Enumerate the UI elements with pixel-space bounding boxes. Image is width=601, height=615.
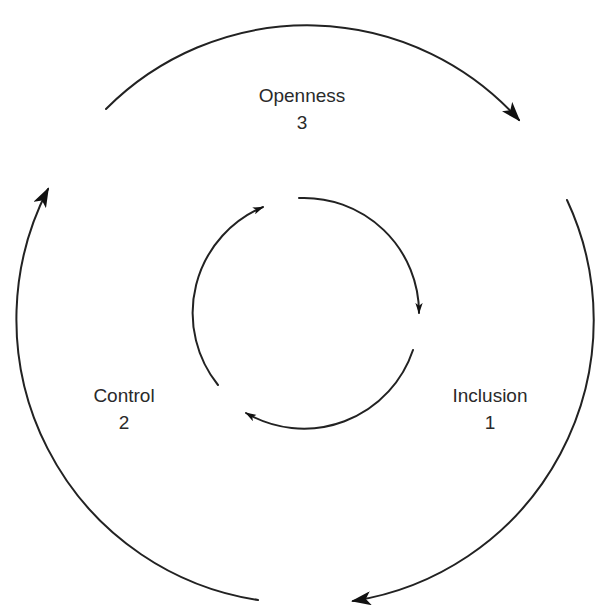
stage-name: Openness: [259, 85, 346, 106]
stage-label-openness: Openness 3: [259, 85, 346, 133]
inner-cycle: [193, 198, 419, 429]
inner-arc-1: [299, 198, 419, 313]
stage-name: Control: [93, 385, 154, 406]
cycle-diagram: Openness 3 Control 2 Inclusion 1: [0, 0, 601, 615]
stage-number: 2: [119, 412, 130, 433]
stage-name: Inclusion: [453, 385, 528, 406]
stage-number: 3: [297, 112, 308, 133]
stage-label-control: Control 2: [93, 385, 154, 433]
stage-label-inclusion: Inclusion 1: [453, 385, 528, 433]
stage-number: 1: [485, 412, 496, 433]
inner-arc-2: [246, 350, 413, 429]
inner-arc-3: [193, 207, 263, 385]
